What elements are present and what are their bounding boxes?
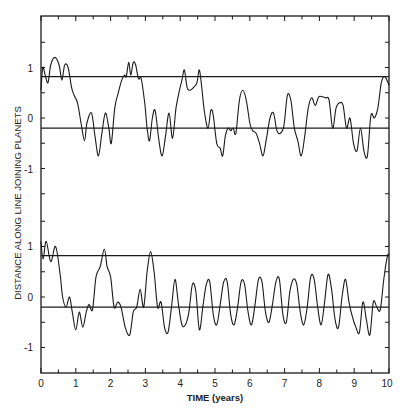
xtick-7: 7 — [282, 378, 288, 389]
plot-frame — [41, 16, 389, 373]
curves — [41, 57, 389, 335]
xtick-10: 10 — [381, 378, 393, 389]
bottom-ytick-0: 0 — [27, 292, 33, 303]
top-ytick-neg1: -1 — [24, 164, 33, 175]
xtick-6: 6 — [247, 378, 253, 389]
axes-frame — [41, 16, 389, 373]
xtick-1: 1 — [73, 378, 79, 389]
xtick-2: 2 — [108, 378, 114, 389]
top-ytick-0: 0 — [27, 113, 33, 124]
xtick-0: 0 — [38, 378, 44, 389]
xtick-3: 3 — [143, 378, 149, 389]
reference-lines — [41, 77, 389, 308]
top-ytick-1: 1 — [27, 63, 33, 74]
xtick-4: 4 — [177, 378, 183, 389]
xtick-5: 5 — [212, 378, 218, 389]
bottom-ytick-1: 1 — [27, 241, 33, 252]
x-tick-labels: 0 1 2 3 4 5 6 7 8 9 10 — [38, 378, 393, 389]
chart-figure: 1 0 -1 1 0 -1 0 1 2 3 4 5 6 7 8 9 10 TIM… — [0, 0, 405, 411]
top-curve — [41, 57, 389, 158]
bottom-ytick-neg1: -1 — [24, 342, 33, 353]
xtick-8: 8 — [317, 378, 323, 389]
axis-ticks — [41, 16, 389, 373]
xtick-9: 9 — [351, 378, 357, 389]
y-axis-title: DISTANCE ALONG LINE JOINING PLANETS — [12, 106, 23, 300]
x-axis-title: TIME (years) — [187, 392, 244, 403]
